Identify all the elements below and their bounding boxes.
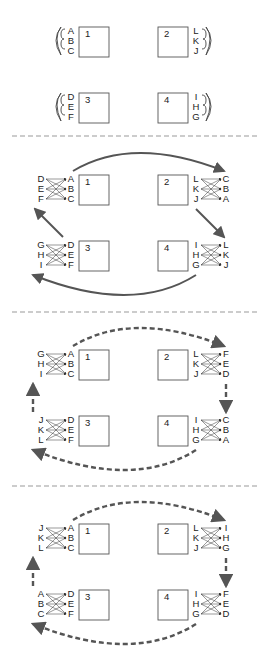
transfer-arrow (73, 328, 224, 346)
box-2: 2LKJCBA (158, 173, 230, 205)
outer-port-label: D (223, 608, 230, 619)
outer-port-label: D (223, 368, 230, 379)
box-3: 3DEFGHI (37, 239, 109, 271)
box-number: 3 (85, 242, 90, 253)
box-number: 3 (85, 94, 90, 105)
port-label: F (68, 111, 74, 122)
box-4: 4IHGLKJ (158, 239, 230, 271)
inner-port-label: C (68, 193, 75, 204)
box-number: 2 (164, 28, 169, 39)
box-1: 1ABCDEF (38, 173, 109, 205)
outer-port-label: G (222, 542, 229, 553)
brace-icon (202, 29, 206, 49)
brace-icon (202, 95, 206, 115)
box-2: 2LKJ (158, 25, 211, 57)
transfer-arrow (73, 502, 224, 520)
transfer-arrow (33, 450, 196, 470)
inner-port-label: C (68, 368, 75, 379)
inner-port-label: G (192, 434, 199, 445)
box-3: 3DEFJKL (38, 414, 109, 446)
box-number: 3 (85, 417, 90, 428)
inner-port-label: C (68, 542, 75, 553)
outer-port-label: I (40, 259, 43, 270)
outer-port-label: I (40, 368, 43, 379)
box-1: 1ABC (56, 25, 109, 57)
inner-port-label: J (194, 368, 199, 379)
box-4: 4IHGFED (158, 588, 230, 620)
inner-port-label: G (192, 259, 199, 270)
inner-port-label: G (192, 608, 199, 619)
port-label: C (68, 45, 75, 56)
box-2: 2LKJFED (158, 348, 230, 380)
brace-icon (61, 95, 65, 115)
box-number: 3 (85, 591, 90, 602)
box-number: 4 (164, 417, 169, 428)
box-1: 1ABCJKL (38, 522, 109, 554)
box-number: 2 (164, 176, 169, 187)
diagram-canvas: 1ABC2LKJ3DEF4IHG1ABCDEF2LKJCBA3DEFGHI4IH… (0, 0, 265, 663)
box-3: 3DEFABC (38, 588, 109, 620)
box-number: 2 (164, 351, 169, 362)
box-number: 2 (164, 525, 169, 536)
port-label: J (194, 45, 199, 56)
box-4: 4IHG (158, 91, 211, 123)
port-label: G (192, 111, 199, 122)
outer-port-label: A (223, 193, 230, 204)
box-number: 4 (164, 591, 169, 602)
inner-port-label: F (68, 608, 74, 619)
box-3: 3DEF (56, 91, 109, 123)
box-4: 4IHGCBA (158, 414, 230, 446)
brace-icon (61, 29, 65, 49)
transfer-arrow (33, 624, 196, 644)
box-2: 2LKJIHG (158, 522, 230, 554)
inner-port-label: J (194, 193, 199, 204)
box-number: 4 (164, 242, 169, 253)
outer-port-label: A (223, 434, 230, 445)
outer-port-label: J (224, 259, 229, 270)
box-number: 1 (85, 351, 90, 362)
box-number: 1 (85, 176, 90, 187)
outer-port-label: F (38, 193, 44, 204)
transfer-arrow (73, 153, 224, 171)
transfer-arrow (35, 209, 63, 237)
transfer-arrow (33, 275, 196, 295)
transfer-arrow (196, 209, 224, 237)
inner-port-label: J (194, 542, 199, 553)
outer-port-label: C (38, 608, 45, 619)
outer-port-label: L (38, 434, 43, 445)
outer-port-label: L (38, 542, 43, 553)
box-number: 4 (164, 94, 169, 105)
box-number: 1 (85, 28, 90, 39)
box-number: 1 (85, 525, 90, 536)
box-1: 1ABCGHI (37, 348, 109, 380)
inner-port-label: F (68, 259, 74, 270)
inner-port-label: F (68, 434, 74, 445)
